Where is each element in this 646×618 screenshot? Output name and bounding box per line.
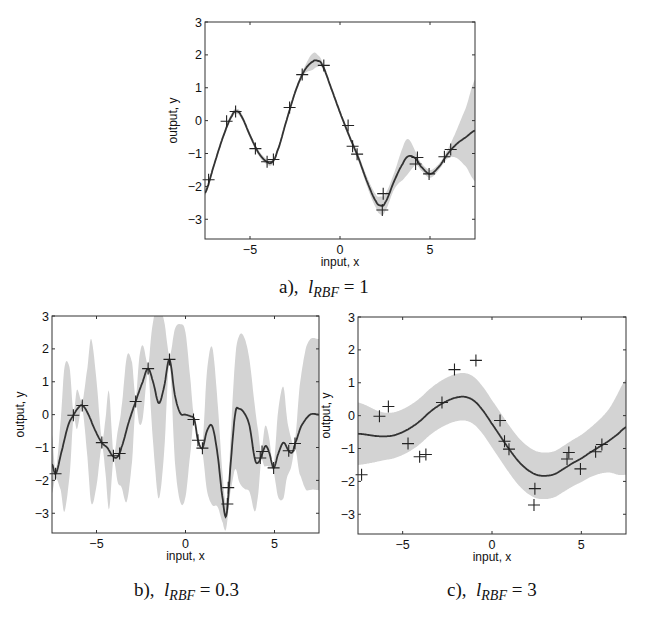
x-axis-label: input, x bbox=[166, 549, 205, 563]
y-axis-label: output, y bbox=[166, 97, 180, 143]
x-axis-label: input, x bbox=[321, 255, 360, 269]
y-tick-label: 1 bbox=[42, 375, 49, 389]
caption-a: a), lRBF = 1 bbox=[279, 276, 369, 301]
confidence-band bbox=[205, 53, 475, 216]
plus-marker bbox=[420, 448, 432, 460]
x-tick-label: 5 bbox=[271, 537, 278, 551]
y-tick-label: 2 bbox=[42, 342, 49, 356]
plus-marker bbox=[356, 469, 368, 481]
y-tick-label: −2 bbox=[188, 180, 202, 194]
plot-c: −3−2−10123−505input, xoutput, y bbox=[313, 305, 643, 567]
plus-marker bbox=[414, 451, 426, 463]
y-tick-label: −1 bbox=[188, 147, 202, 161]
confidence-band bbox=[52, 307, 319, 531]
caption-c: c), lRBF = 3 bbox=[447, 579, 537, 604]
x-axis-label: input, x bbox=[473, 550, 512, 564]
y-tick-label: 0 bbox=[348, 409, 355, 423]
y-tick-label: −1 bbox=[341, 442, 355, 456]
x-tick-label: 5 bbox=[427, 243, 434, 257]
y-tick-label: −1 bbox=[35, 441, 49, 455]
plot-a: −3−2−10123−505input, xoutput, y bbox=[160, 10, 490, 272]
y-tick-label: 2 bbox=[348, 343, 355, 357]
y-tick-label: −2 bbox=[35, 474, 49, 488]
plus-marker bbox=[470, 354, 482, 366]
caption-b: b), lRBF = 0.3 bbox=[134, 579, 239, 604]
y-axis-label: output, y bbox=[319, 392, 333, 438]
axes-box bbox=[205, 22, 475, 239]
plot-area bbox=[205, 53, 475, 216]
plot-area bbox=[358, 373, 626, 499]
x-tick-label: −5 bbox=[89, 537, 103, 551]
y-tick-label: −2 bbox=[341, 475, 355, 489]
y-tick-label: 3 bbox=[348, 311, 355, 325]
plus-marker bbox=[284, 101, 296, 113]
y-tick-label: −3 bbox=[341, 508, 355, 522]
plus-marker bbox=[203, 174, 215, 186]
mean-line bbox=[205, 60, 475, 206]
x-tick-label: −5 bbox=[243, 243, 257, 257]
y-tick-label: 0 bbox=[195, 114, 202, 128]
y-tick-label: −3 bbox=[35, 507, 49, 521]
y-tick-label: −3 bbox=[188, 213, 202, 227]
y-tick-label: 3 bbox=[195, 16, 202, 30]
confidence-band bbox=[358, 373, 626, 499]
plus-marker bbox=[528, 499, 540, 511]
y-tick-label: 2 bbox=[195, 48, 202, 62]
plus-marker bbox=[382, 400, 394, 412]
plot-area bbox=[52, 307, 319, 531]
x-tick-label: −5 bbox=[396, 538, 410, 552]
y-tick-label: 0 bbox=[42, 408, 49, 422]
y-tick-label: 3 bbox=[42, 310, 49, 324]
plot-b: −3−2−10123−505input, xoutput, y bbox=[7, 304, 327, 566]
y-tick-label: 1 bbox=[348, 376, 355, 390]
x-tick-label: 5 bbox=[578, 538, 585, 552]
chart-svg-a: −3−2−10123−505input, xoutput, y bbox=[160, 10, 490, 272]
y-tick-label: 1 bbox=[195, 81, 202, 95]
chart-svg-b: −3−2−10123−505input, xoutput, y bbox=[7, 304, 327, 566]
chart-svg-c: −3−2−10123−505input, xoutput, y bbox=[313, 305, 643, 567]
y-axis-label: output, y bbox=[13, 391, 27, 437]
